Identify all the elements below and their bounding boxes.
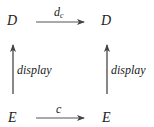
node-top-right: D (101, 14, 111, 28)
label-bottom-arrow: c (56, 103, 61, 115)
node-bottom-right: E (102, 111, 111, 125)
label-top-sub: c (60, 11, 64, 20)
commutative-diagram: D D E E dc c display display (0, 0, 154, 127)
node-bottom-left: E (8, 111, 17, 125)
label-right-arrow: display (111, 64, 146, 76)
label-top-arrow: dc (54, 6, 64, 22)
node-top-left: D (7, 14, 17, 28)
label-left-arrow: display (17, 64, 52, 76)
